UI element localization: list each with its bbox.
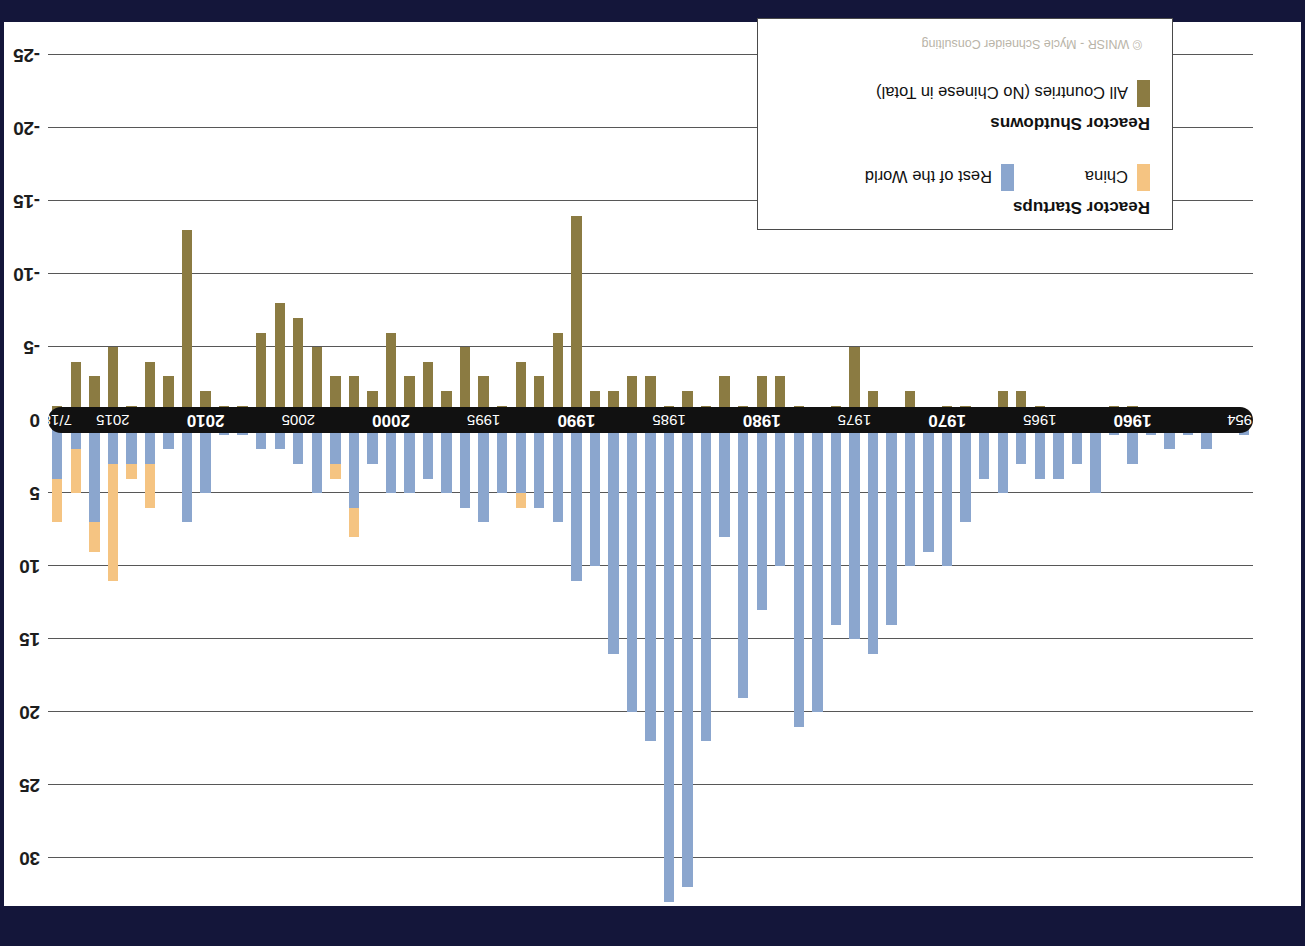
y-axis-tick-label: 0: [0, 409, 40, 431]
x-axis-band: 1954196019651970197519801985199019952000…: [48, 407, 1253, 433]
bar-startups-china: [145, 464, 155, 508]
legend-label-china: China: [1085, 167, 1128, 186]
credit-line: © WNISR - Mycle Schneider Consulting: [922, 37, 1142, 51]
bar-startups-rest-of-world: [627, 420, 637, 712]
bar-startups-rest-of-world: [849, 420, 859, 639]
y-axis-tick-label: -20: [0, 117, 40, 139]
x-axis-tick-label: 1995: [467, 407, 500, 433]
legend-title-startups: Reactor Startups: [1013, 197, 1150, 217]
bar-startups-rest-of-world: [960, 420, 970, 522]
x-axis-tick-label: 1960: [1114, 407, 1152, 433]
y-axis-tick-label: -25: [0, 44, 40, 66]
bar-startups-rest-of-world: [812, 420, 822, 712]
bar-startups-rest-of-world: [89, 420, 99, 522]
legend-swatch-china: [1137, 164, 1150, 191]
bar-startups-rest-of-world: [701, 420, 711, 741]
bar-startups-rest-of-world: [682, 420, 692, 887]
y-axis-tick-label: -15: [0, 190, 40, 212]
rotated-chart-container: 30252015105-5-10-15-20-25019541960196519…: [4, 22, 1301, 906]
bar-startups-china: [71, 449, 81, 493]
bar-startups-rest-of-world: [182, 420, 192, 522]
x-axis-tick-label: 2005: [282, 407, 315, 433]
bar-shutdowns-all-countries: [571, 216, 581, 420]
gridline: [48, 784, 1253, 785]
bar-startups-rest-of-world: [460, 420, 470, 508]
bar-shutdowns-all-countries: [293, 318, 303, 420]
bar-startups-rest-of-world: [942, 420, 952, 566]
plot-area: 30252015105-5-10-15-20-25019541960196519…: [48, 26, 1253, 902]
bar-startups-china: [330, 464, 340, 479]
y-axis-tick-label: -5: [0, 336, 40, 358]
bar-startups-china: [89, 522, 99, 551]
figure-frame: 30252015105-5-10-15-20-25019541960196519…: [0, 0, 1305, 946]
y-axis-tick-label: 30: [0, 847, 40, 869]
bar-startups-rest-of-world: [553, 420, 563, 522]
bar-shutdowns-all-countries: [275, 303, 285, 420]
bar-startups-rest-of-world: [534, 420, 544, 508]
gridline: [48, 273, 1253, 274]
bar-shutdowns-all-countries: [182, 230, 192, 420]
bar-startups-china: [108, 464, 118, 581]
y-axis-tick-label: 20: [0, 701, 40, 723]
bar-startups-rest-of-world: [664, 420, 674, 902]
bar-startups-china: [126, 464, 136, 479]
bar-startups-rest-of-world: [349, 420, 359, 508]
x-axis-tick-label: 1965: [1023, 407, 1056, 433]
y-axis-tick-label: -10: [0, 263, 40, 285]
y-axis-tick-label: 25: [0, 774, 40, 796]
legend-label-all-countries: All Countries (No Chinese in Total): [876, 83, 1128, 102]
legend-swatch-rest-of-world: [1001, 164, 1014, 191]
bar-startups-rest-of-world: [868, 420, 878, 654]
bar-startups-rest-of-world: [905, 420, 915, 566]
x-axis-tick-label: 2015: [96, 407, 129, 433]
bar-startups-rest-of-world: [886, 420, 896, 624]
gridline: [48, 346, 1253, 347]
y-axis-tick-label: 10: [0, 555, 40, 577]
x-axis-tick-label: 1985: [652, 407, 685, 433]
x-axis-tick-label: 1970: [928, 407, 966, 433]
bar-startups-rest-of-world: [757, 420, 767, 610]
bar-startups-rest-of-world: [608, 420, 618, 654]
bar-startups-rest-of-world: [923, 420, 933, 551]
legend-swatch-all-countries: [1137, 80, 1150, 107]
legend-label-rest-of-world: Rest of the World: [865, 167, 992, 186]
x-axis-tick-label: 1954: [1227, 407, 1260, 433]
x-axis-tick-label: 2000: [372, 407, 410, 433]
x-axis-tick-label: 1980: [743, 407, 781, 433]
y-axis-tick-label: 15: [0, 628, 40, 650]
bar-startups-china: [52, 479, 62, 523]
bar-startups-china: [349, 508, 359, 537]
x-axis-tick-label: 1990: [557, 407, 595, 433]
x-axis-tick-label: 2010: [187, 407, 225, 433]
bar-startups-rest-of-world: [775, 420, 785, 566]
bar-startups-rest-of-world: [831, 420, 841, 624]
legend-title-shutdowns: Reactor Shutdowns: [990, 113, 1150, 133]
bar-startups-rest-of-world: [590, 420, 600, 566]
bar-startups-rest-of-world: [719, 420, 729, 537]
bar-startups-rest-of-world: [738, 420, 748, 697]
bar-startups-rest-of-world: [645, 420, 655, 741]
bar-startups-rest-of-world: [571, 420, 581, 581]
x-axis-tick-label: 1975: [838, 407, 871, 433]
bar-startups-china: [516, 493, 526, 508]
x-axis-tick-label: 7/18: [43, 407, 72, 433]
gridline: [48, 857, 1253, 858]
y-axis-tick-label: 5: [0, 482, 40, 504]
figure-page: 30252015105-5-10-15-20-25019541960196519…: [4, 22, 1301, 906]
bar-startups-rest-of-world: [794, 420, 804, 727]
bar-startups-rest-of-world: [478, 420, 488, 522]
legend: Reactor StartupsChinaRest of the WorldRe…: [757, 18, 1173, 230]
